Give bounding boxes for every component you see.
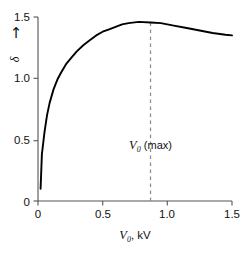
data-curve (41, 22, 232, 189)
x-tick-label-1-0: 1.0 (152, 208, 182, 220)
y-tick-label-0: 0 (0, 196, 30, 208)
axis-lines (38, 17, 232, 201)
x-tick-label-0: 0 (26, 208, 50, 220)
y-axis-arrow-icon: ↑ (9, 26, 23, 41)
x-axis-title: V0, kV (38, 228, 232, 244)
y-tick-label-0-5: 0.5 (0, 134, 30, 146)
y-axis-title: δ (8, 51, 23, 69)
x-tick-marks (38, 201, 232, 206)
chart-figure: 1.5 1.0 0.5 0 0 0.5 1.0 1.5 ↑ δ V0, kV V… (0, 0, 248, 253)
v0-max-suffix: (max) (141, 139, 172, 151)
x-axis-title-symbol: V (119, 228, 127, 242)
y-tick-label-1-5: 1.5 (0, 11, 30, 23)
v0-max-annotation-label: V0 (max) (108, 138, 194, 154)
v0-max-symbol: V (129, 138, 137, 152)
x-tick-label-1-5: 1.5 (217, 208, 247, 220)
y-tick-label-1-0: 1.0 (0, 72, 30, 84)
y-tick-marks (34, 17, 39, 201)
x-tick-label-0-5: 0.5 (88, 208, 118, 220)
x-axis-title-unit: , kV (131, 229, 151, 241)
